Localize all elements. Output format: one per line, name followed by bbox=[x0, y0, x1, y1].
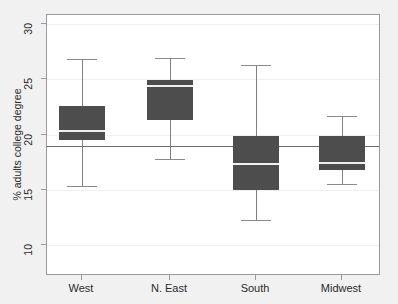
y-tick-label-10: 10 bbox=[22, 244, 34, 256]
y-tick-label-15: 15 bbox=[22, 189, 34, 201]
x-tick-mark-west bbox=[81, 275, 82, 280]
y-axis-ticks: 1015202530 bbox=[0, 0, 46, 304]
y-tick-label-20: 20 bbox=[22, 134, 34, 146]
x-tick-mark-south bbox=[255, 275, 256, 280]
boxplot-group bbox=[47, 15, 379, 274]
x-tick-mark-midwest bbox=[341, 275, 342, 280]
whisker-cap-low bbox=[327, 184, 357, 185]
x-axis-label-midwest: Midwest bbox=[291, 281, 391, 295]
x-axis-label-south: South bbox=[205, 281, 305, 295]
y-tick-label-30: 30 bbox=[22, 23, 34, 35]
median-line bbox=[319, 162, 365, 164]
x-axis-label-n-east: N. East bbox=[119, 281, 219, 295]
boxplot-chart: % adults college degree 1015202530 WestN… bbox=[0, 0, 398, 304]
plot-area bbox=[46, 14, 380, 275]
x-tick-mark-n-east bbox=[169, 275, 170, 280]
y-tick-label-25: 25 bbox=[22, 78, 34, 90]
x-axis-label-west: West bbox=[31, 281, 131, 295]
box-iqr bbox=[319, 136, 365, 170]
whisker-cap-high bbox=[327, 116, 357, 117]
